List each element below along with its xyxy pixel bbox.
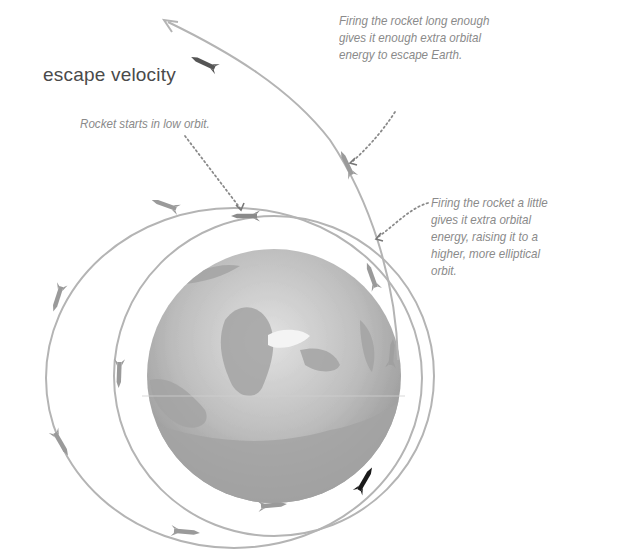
diagram-title: escape velocity	[43, 64, 176, 86]
annotation-low-orbit: Rocket starts in low orbit.	[80, 115, 210, 132]
earth-globe	[140, 249, 410, 520]
annotation-little-firing: Firing the rocket a little gives it extr…	[431, 194, 548, 279]
escape-velocity-diagram: escape velocity Rocket starts in low orb…	[0, 0, 625, 560]
leader-lines	[185, 112, 428, 237]
annotation-escape: Firing the rocket long enough gives it e…	[339, 12, 489, 63]
leader-arrowheads	[236, 158, 383, 241]
